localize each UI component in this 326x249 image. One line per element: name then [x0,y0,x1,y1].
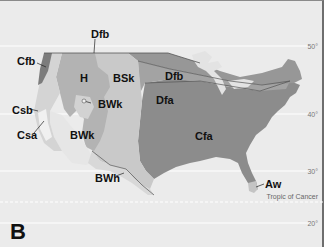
panel-letter: B [10,221,26,243]
latitude-label-30: 30° [307,168,318,175]
latitude-label-50: 50° [307,43,318,50]
label-dfb: Dfb [165,71,183,82]
tropic-of-cancer-label: Tropic of Cancer [267,193,318,200]
map-graphic [0,1,324,248]
label-bwh: BWh [95,173,120,184]
label-dfa: Dfa [156,95,174,106]
label-bsk: BSk [113,73,134,84]
leader-dfb-north [94,39,95,53]
label-csa: Csa [17,130,37,141]
bwk-marker-icon [82,99,86,103]
latitude-label-40: 40° [307,111,318,118]
latitude-label-20: 20° [307,220,318,227]
leader-aw [256,184,264,187]
label-h: H [80,73,88,84]
label-csb: Csb [12,105,33,116]
label-aw: Aw [265,179,281,190]
label-cfb: Cfb [17,56,35,67]
label-dfb-north: Dfb [91,29,109,40]
climate-map: Cfb Dfb H BSk Dfb Dfa BWk Csb Csa BWk Cf… [0,0,324,247]
label-cfa: Cfa [195,131,213,142]
label-bwk: BWk [70,130,94,141]
label-bwk-small: BWk [98,99,122,110]
